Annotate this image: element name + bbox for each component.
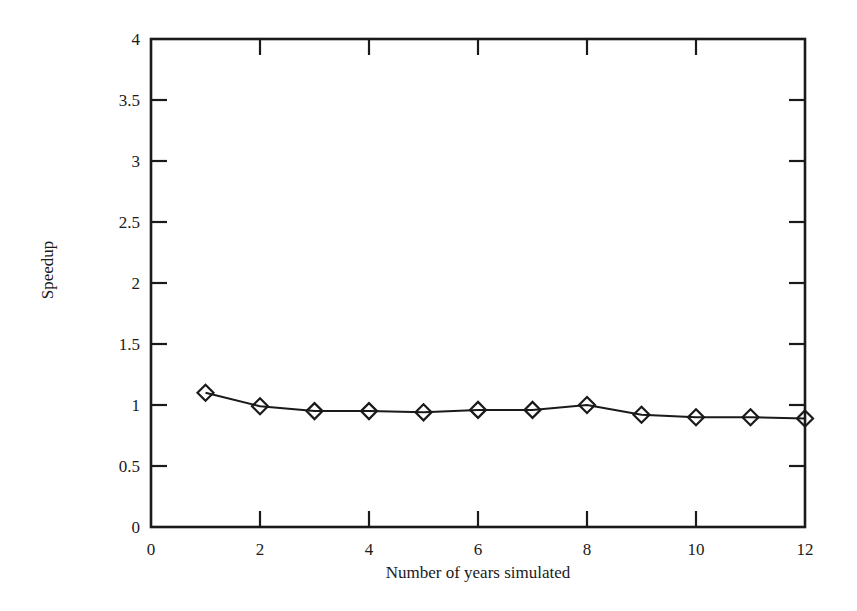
y-tick-label: 1.5 <box>119 335 140 354</box>
y-tick-labels: 00.511.522.533.54 <box>119 30 141 537</box>
speedup-line-chart: 024681012 00.511.522.533.54 Number of ye… <box>0 0 857 611</box>
series-line <box>206 393 806 419</box>
diamond-marker <box>797 410 813 426</box>
diamond-marker <box>416 404 432 420</box>
x-tick-label: 8 <box>583 540 592 559</box>
data-series <box>198 385 814 427</box>
axis-ticks <box>151 39 805 527</box>
diamond-marker <box>688 409 704 425</box>
y-tick-label: 3.5 <box>119 91 140 110</box>
diamond-marker <box>525 402 541 418</box>
diamond-marker <box>198 385 214 401</box>
y-tick-label: 0 <box>132 518 141 537</box>
x-tick-label: 0 <box>147 540 156 559</box>
x-tick-label: 4 <box>365 540 374 559</box>
y-tick-label: 3 <box>132 152 141 171</box>
y-tick-label: 4 <box>132 30 141 49</box>
x-tick-label: 12 <box>797 540 814 559</box>
x-tick-labels: 024681012 <box>147 540 814 559</box>
x-axis-label: Number of years simulated <box>386 563 571 582</box>
x-tick-label: 6 <box>474 540 483 559</box>
diamond-marker <box>634 407 650 423</box>
y-axis-label: Speedup <box>38 241 57 300</box>
diamond-marker <box>579 397 595 413</box>
diamond-marker <box>252 398 268 414</box>
y-tick-label: 1 <box>132 396 141 415</box>
y-tick-label: 0.5 <box>119 457 140 476</box>
diamond-marker <box>743 409 759 425</box>
x-tick-label: 2 <box>256 540 265 559</box>
x-tick-label: 10 <box>688 540 705 559</box>
plot-frame <box>151 39 805 527</box>
plot-border <box>151 39 805 527</box>
diamond-marker <box>307 403 323 419</box>
y-tick-label: 2.5 <box>119 213 140 232</box>
y-tick-label: 2 <box>132 274 141 293</box>
diamond-marker <box>361 403 377 419</box>
diamond-marker <box>470 402 486 418</box>
